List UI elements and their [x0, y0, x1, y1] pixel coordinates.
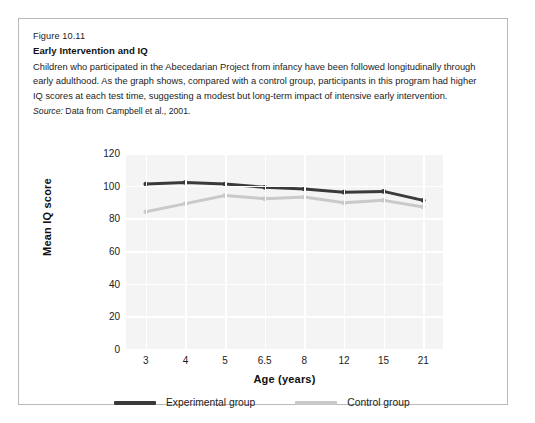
gridline-vertical [344, 153, 346, 349]
x-axis-tick-label: 15 [362, 355, 406, 366]
y-axis-tick-label: 80 [80, 213, 120, 224]
gridline-vertical [423, 153, 425, 349]
y-axis-label: Mean IQ score [41, 157, 53, 277]
legend-item-control: Control group [295, 397, 409, 408]
figure-caption: Figure 10.11 Early Intervention and IQ C… [33, 29, 485, 118]
y-axis-tick-label: 60 [80, 246, 120, 257]
y-axis-tick-label: 40 [80, 278, 120, 289]
gridline-horizontal [126, 349, 443, 351]
x-axis-tick-label: 3 [124, 355, 168, 366]
figure-number: Figure 10.11 [33, 29, 485, 43]
gridline-horizontal [126, 186, 443, 188]
gridline-vertical [185, 153, 187, 349]
source-text: Data from Campbell et al., 2001. [63, 106, 190, 116]
gridline-horizontal [126, 316, 443, 318]
x-axis-ticks: 3456.58121521 [126, 355, 443, 371]
y-axis-ticks: 120100806040200 [76, 153, 120, 349]
gridline-horizontal [126, 284, 443, 286]
x-axis-label: Age (years) [126, 373, 443, 385]
gridline-vertical [384, 153, 386, 349]
gridline-horizontal [126, 218, 443, 220]
x-axis-tick-label: 5 [203, 355, 247, 366]
plot-area [126, 153, 443, 349]
x-axis-tick-label: 4 [163, 355, 207, 366]
gridline-vertical [304, 153, 306, 349]
figure-source: Source: Data from Campbell et al., 2001. [33, 104, 485, 118]
y-axis-tick-label: 20 [80, 311, 120, 322]
gridline-vertical [225, 153, 227, 349]
legend-label-experimental: Experimental group [166, 397, 255, 408]
line-chart: Mean IQ score 120100806040200 3456.58121… [19, 131, 507, 405]
gridline-vertical [265, 153, 267, 349]
y-axis-tick-label: 120 [80, 148, 120, 159]
x-axis-tick-label: 6.5 [243, 355, 287, 366]
y-axis-tick-label: 0 [80, 344, 120, 355]
legend-item-experimental: Experimental group [114, 397, 255, 408]
x-axis-tick-label: 21 [401, 355, 445, 366]
source-label: Source: [33, 106, 63, 116]
x-axis-tick-label: 12 [322, 355, 366, 366]
figure-description: Children who participated in the Abeceda… [33, 60, 485, 103]
gridline-horizontal [126, 153, 443, 155]
y-axis-tick-label: 100 [80, 180, 120, 191]
legend-label-control: Control group [347, 397, 409, 408]
gridline-horizontal [126, 251, 443, 253]
legend-swatch-control [295, 401, 337, 405]
figure-container: Figure 10.11 Early Intervention and IQ C… [18, 18, 508, 405]
gridline-vertical [146, 153, 148, 349]
x-axis-tick-label: 8 [282, 355, 326, 366]
figure-title: Early Intervention and IQ [33, 43, 485, 58]
chart-legend: Experimental group Control group [114, 397, 444, 408]
legend-swatch-experimental [114, 401, 156, 405]
